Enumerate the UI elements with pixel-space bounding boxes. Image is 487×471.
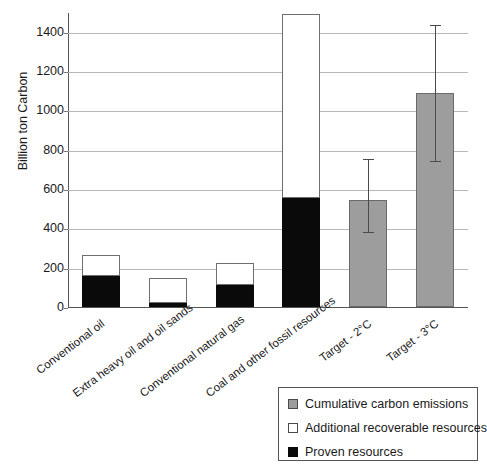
error-bar-cap-upper	[430, 25, 441, 26]
y-axis-tick-mark	[64, 151, 68, 152]
y-axis-tick-mark	[64, 111, 68, 112]
x-axis-line	[68, 307, 468, 308]
legend-swatch-white	[288, 423, 298, 433]
error-bar	[435, 25, 436, 162]
y-axis-tick-label: 800	[24, 145, 64, 156]
legend-label: Cumulative carbon emissions	[305, 397, 468, 411]
error-bar	[368, 159, 369, 233]
legend-swatch-gray	[288, 399, 298, 409]
y-axis-tick-label: 400	[24, 223, 64, 234]
gridline	[68, 229, 468, 230]
bar-segment-proven-resources[interactable]	[282, 198, 320, 307]
y-axis-tick-label: 600	[24, 184, 64, 195]
y-axis-tick-mark	[64, 308, 68, 309]
y-axis-tick-mark	[64, 190, 68, 191]
error-bar-cap-lower	[430, 161, 441, 162]
bar-segment-additional-recoverable-resources[interactable]	[149, 278, 187, 304]
y-axis-tick-label: 0	[24, 302, 64, 313]
gridline	[68, 190, 468, 191]
error-bar-cap-upper	[363, 159, 374, 160]
gridline	[68, 111, 468, 112]
y-axis-tick-mark	[64, 229, 68, 230]
gridline	[68, 269, 468, 270]
chart-legend: Cumulative carbon emissionsAdditional re…	[278, 387, 478, 461]
gridline	[68, 72, 468, 73]
y-axis-tick-mark	[64, 72, 68, 73]
bar-group[interactable]	[282, 14, 320, 307]
gridline	[68, 151, 468, 152]
y-axis-tick-label: 200	[24, 263, 64, 274]
bar-group[interactable]	[149, 278, 187, 308]
bar-segment-additional-recoverable-resources[interactable]	[216, 263, 254, 286]
legend-item[interactable]: Cumulative carbon emissions	[288, 397, 468, 411]
y-axis-tick-labels: 0200400600800100012001400	[22, 0, 64, 320]
gridline	[68, 33, 468, 34]
bar-segment-proven-resources[interactable]	[82, 276, 120, 307]
error-bar-cap-lower	[363, 232, 374, 233]
y-axis-tick-mark	[64, 269, 68, 270]
legend-swatch-black	[288, 447, 298, 457]
y-axis-line	[68, 13, 69, 308]
legend-label: Additional recoverable resources	[305, 421, 487, 435]
y-axis-tick-label: 1400	[24, 27, 64, 38]
y-axis-tick-label: 1200	[24, 66, 64, 77]
legend-label: Proven resources	[305, 445, 403, 459]
bar-segment-additional-recoverable-resources[interactable]	[282, 14, 320, 198]
legend-item[interactable]: Proven resources	[288, 445, 403, 459]
bar-group[interactable]	[82, 255, 120, 307]
y-axis-tick-label: 1000	[24, 105, 64, 116]
bar-group[interactable]	[216, 263, 254, 307]
legend-item[interactable]: Additional recoverable resources	[288, 421, 487, 435]
y-axis-tick-mark	[64, 33, 68, 34]
bar-segment-additional-recoverable-resources[interactable]	[82, 255, 120, 276]
bar-segment-proven-resources[interactable]	[216, 285, 254, 307]
plot-area	[68, 13, 468, 308]
